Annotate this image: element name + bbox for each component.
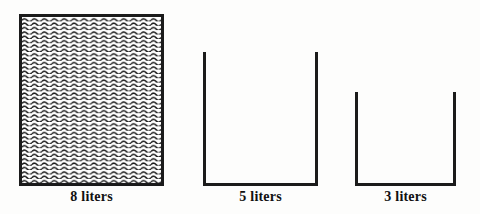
- jug-3-liters-capacity: 3: [384, 189, 391, 204]
- jug-8-liters: [19, 14, 164, 186]
- jug-8-liters-unit: liters: [81, 189, 113, 204]
- jug-8-liters-body: [19, 14, 164, 186]
- jug-5-liters: [203, 52, 318, 186]
- water-jugs-diagram: 8liters 5liters 3liters: [0, 0, 480, 214]
- jug-8-liters-label: 8liters: [19, 189, 164, 205]
- jug-3-liters: [355, 92, 456, 186]
- jug-5-liters-unit: liters: [250, 189, 282, 204]
- jug-5-liters-label: 5liters: [203, 189, 318, 205]
- jug-3-liters-unit: liters: [395, 189, 427, 204]
- jug-8-liters-capacity: 8: [70, 189, 77, 204]
- wavy-hatch-pattern: [22, 17, 161, 183]
- jug-8-liters-water-fill: [22, 17, 161, 183]
- jug-3-liters-label: 3liters: [355, 189, 456, 205]
- jug-3-liters-body: [355, 92, 456, 186]
- jug-5-liters-body: [203, 52, 318, 186]
- jug-5-liters-capacity: 5: [239, 189, 246, 204]
